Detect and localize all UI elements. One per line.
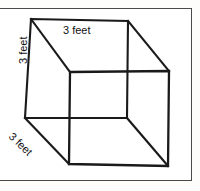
cube-edge-depth-top-right <box>128 21 169 71</box>
dimension-label-top: 3 feet <box>63 24 91 36</box>
cube-wireframe-drawing <box>0 0 200 191</box>
cube-edge-depth-bottom-left <box>25 118 69 164</box>
dimension-label-left: 3 feet <box>17 36 29 64</box>
cube-figure-screenshot: 3 feet 3 feet 3 feet <box>0 0 200 191</box>
cube-edge-depth-bottom-right <box>127 118 168 166</box>
